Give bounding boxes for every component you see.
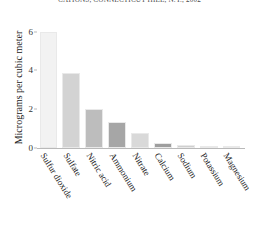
y-axis-tick-label: 4 bbox=[29, 65, 34, 75]
bar bbox=[177, 145, 195, 148]
bar bbox=[108, 122, 126, 148]
bar bbox=[85, 109, 103, 148]
bar bbox=[40, 32, 58, 148]
y-axis-label: Micrograms per cubic meter bbox=[13, 18, 24, 158]
bar bbox=[131, 133, 149, 149]
x-axis-line bbox=[37, 148, 245, 149]
x-axis-tick-label: Calcium bbox=[153, 151, 178, 182]
bar bbox=[154, 143, 172, 148]
x-axis-tick-label: Sulfate bbox=[61, 151, 83, 178]
y-axis-tick-label: 0 bbox=[29, 143, 34, 153]
chart-title: CATIONS, CONNECTICUT HILL, N.Y., 2002 bbox=[0, 0, 259, 4]
y-axis-tick-mark bbox=[34, 70, 37, 71]
plot-area: 0246Sulfur dioxideSulfateNitric acidAmmo… bbox=[37, 20, 243, 148]
y-axis-tick-label: 2 bbox=[29, 104, 34, 114]
bar bbox=[62, 73, 80, 148]
y-axis-tick-mark bbox=[34, 31, 37, 32]
y-axis-tick-mark bbox=[34, 148, 37, 149]
x-axis-tick-label: Nitrate bbox=[130, 151, 152, 178]
bar-chart: CATIONS, CONNECTICUT HILL, N.Y., 2002 Mi… bbox=[0, 0, 259, 226]
bar bbox=[223, 146, 241, 148]
x-axis-tick-label: Sodium bbox=[176, 151, 199, 180]
y-axis-tick-label: 6 bbox=[29, 27, 34, 37]
y-axis-tick-mark bbox=[34, 109, 37, 110]
bar bbox=[200, 146, 218, 148]
x-axis-tick-label: Magnesium bbox=[222, 151, 253, 192]
